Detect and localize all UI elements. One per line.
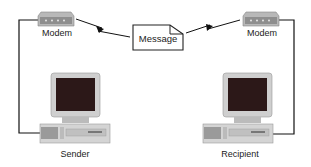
left-modem-icon — [38, 12, 74, 26]
right-lightning-link-icon — [186, 20, 240, 33]
recipient-computer-icon — [203, 73, 273, 143]
left-modem-label: Modem — [36, 28, 78, 38]
diagram-canvas — [0, 0, 311, 167]
recipient-label: Recipient — [215, 149, 265, 159]
right-modem-icon — [243, 12, 279, 26]
right-modem-label: Modem — [241, 28, 283, 38]
sender-label: Sender — [52, 149, 98, 159]
message-label: Message — [134, 33, 182, 44]
sender-computer-icon — [40, 73, 110, 143]
left-lightning-link-icon — [76, 19, 130, 37]
